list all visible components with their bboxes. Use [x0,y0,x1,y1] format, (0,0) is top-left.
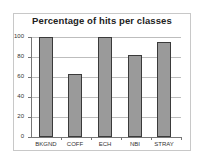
y-tick-label: 40 [4,93,24,99]
x-label-stray: STRAY [149,141,179,147]
bar-stray [157,42,171,137]
x-tick [181,137,182,140]
chart-title: Percentage of hits per classes [13,15,191,26]
x-axis [31,137,181,138]
bar-coff [68,74,82,137]
x-label-nbi: NBI [120,141,150,147]
plot-area: 100 80 60 40 20 0 BKGND COFF ECH NBI STR… [31,37,181,137]
y-axis [31,37,32,137]
bar-bkgnd [39,37,53,137]
x-label-bkgnd: BKGND [31,141,61,147]
y-tick-label: 0 [4,133,24,139]
x-label-ech: ECH [90,141,120,147]
y-tick-label: 100 [4,33,24,39]
y-tick-label: 80 [4,53,24,59]
y-tick-label: 20 [4,113,24,119]
bar-ech [98,37,112,137]
bar-nbi [128,55,142,137]
y-tick-label: 60 [4,73,24,79]
x-label-coff: COFF [60,141,90,147]
